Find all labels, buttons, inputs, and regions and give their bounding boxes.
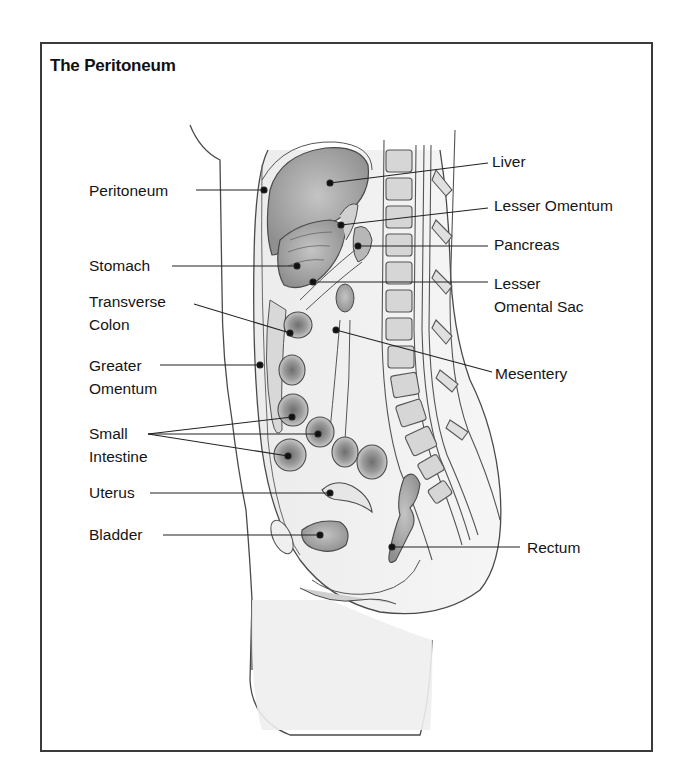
label-text: Colon <box>89 313 166 336</box>
label-text: Rectum <box>527 536 580 559</box>
label-lesser-omentum: Lesser Omentum <box>494 194 613 217</box>
label-text: Lesser <box>494 272 584 295</box>
label-text: Stomach <box>89 254 150 277</box>
label-text: Peritoneum <box>89 179 168 202</box>
label-text: Bladder <box>89 523 142 546</box>
label-text: Mesentery <box>495 362 567 385</box>
label-transverse-colon: Transverse Colon <box>89 290 166 336</box>
label-liver: Liver <box>492 150 526 173</box>
label-text: Omentum <box>89 377 157 400</box>
label-lesser-omental-sac: Lesser Omental Sac <box>494 272 584 318</box>
label-stomach: Stomach <box>89 254 150 277</box>
label-small-intestine: Small Intestine <box>89 422 148 468</box>
label-text: Omental Sac <box>494 295 584 318</box>
label-text: Liver <box>492 150 526 173</box>
label-bladder: Bladder <box>89 523 142 546</box>
label-text: Pancreas <box>494 233 559 256</box>
label-text: Small <box>89 422 148 445</box>
label-text: Greater <box>89 354 157 377</box>
label-greater-omentum: Greater Omentum <box>89 354 157 400</box>
label-mesentery: Mesentery <box>495 362 567 385</box>
label-text: Transverse <box>89 290 166 313</box>
label-text: Uterus <box>89 481 135 504</box>
label-rectum: Rectum <box>527 536 580 559</box>
label-text: Intestine <box>89 445 148 468</box>
label-text: Lesser Omentum <box>494 194 613 217</box>
label-uterus: Uterus <box>89 481 135 504</box>
label-pancreas: Pancreas <box>494 233 559 256</box>
label-peritoneum: Peritoneum <box>89 179 168 202</box>
